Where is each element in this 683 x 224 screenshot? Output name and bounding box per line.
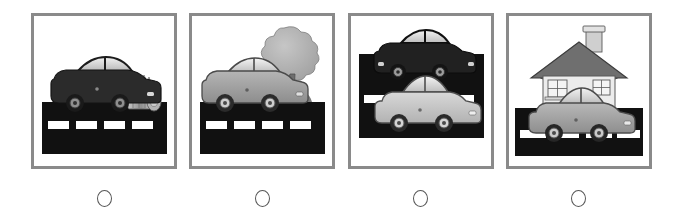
radio-wrap-3 xyxy=(413,187,428,209)
answer-option-1[interactable] xyxy=(31,13,177,209)
answer-options-row xyxy=(31,13,652,213)
road xyxy=(42,102,167,154)
radio-wrap-4 xyxy=(571,187,586,209)
picture-frame-4 xyxy=(506,13,652,169)
answer-option-2[interactable] xyxy=(189,13,335,209)
radio-wrap-2 xyxy=(255,187,270,209)
picture-frame-3 xyxy=(348,13,494,169)
radio-button-option-3[interactable] xyxy=(413,190,428,207)
scene-gray-car-with-house xyxy=(509,16,649,166)
radio-button-option-4[interactable] xyxy=(571,190,586,207)
answer-option-4[interactable] xyxy=(506,13,652,209)
radio-button-option-1[interactable] xyxy=(97,190,112,207)
radio-wrap-1 xyxy=(97,187,112,209)
picture-frame-1 xyxy=(31,13,177,169)
dark-car xyxy=(374,30,476,80)
scene-two-cars-on-road xyxy=(351,16,491,166)
road xyxy=(200,102,325,154)
picture-frame-2 xyxy=(189,13,335,169)
scene-dark-car-with-trash-can xyxy=(34,16,174,166)
answer-option-3[interactable] xyxy=(348,13,494,209)
scene-gray-car-with-tree xyxy=(192,16,332,166)
radio-button-option-2[interactable] xyxy=(255,190,270,207)
